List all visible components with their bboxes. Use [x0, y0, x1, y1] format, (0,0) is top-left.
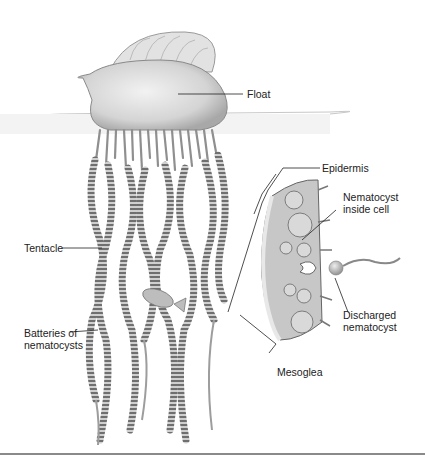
gastrozooid-fringe — [96, 130, 216, 170]
label-batteries-line2: nematocysts — [24, 339, 83, 351]
discharged-nematocyst-shape — [329, 258, 400, 275]
epidermis-cell-section — [261, 180, 332, 340]
label-float: Float — [247, 88, 270, 100]
label-tentacle: Tentacle — [24, 242, 63, 254]
label-mesoglea: Mesoglea — [277, 366, 323, 378]
label-batteries-line1: Batteries of — [24, 327, 77, 339]
bottom-divider — [0, 453, 425, 455]
label-nematocyst-inside-cell-line1: Nematocyst — [343, 191, 398, 203]
label-nematocyst-inside-cell-line2: inside cell — [343, 203, 389, 215]
man-of-war-illustration — [0, 0, 425, 464]
label-discharged-line1: Discharged — [343, 309, 396, 321]
tentacle-thin-strands — [96, 320, 214, 445]
label-discharged-line2: nematocyst — [343, 321, 397, 333]
label-epidermis: Epidermis — [322, 162, 369, 174]
float — [78, 60, 227, 130]
